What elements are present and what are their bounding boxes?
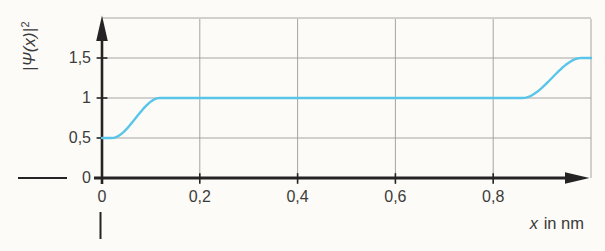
y-axis-title-main: |Ψ(x)| <box>20 28 38 71</box>
y-tick-label: 1 <box>51 88 91 108</box>
x-axis-title-unit: in nm <box>539 214 584 232</box>
probability-density-curve <box>102 58 591 138</box>
y-axis-title-exponent: 2 <box>19 21 31 27</box>
probability-density-chart: |Ψ(x)|2 x in nm 00,20,40,60,80,511,50 <box>0 0 605 251</box>
plot-canvas <box>0 0 605 251</box>
x-tick-label: 0,8 <box>473 187 513 207</box>
x-axis-title: x in nm <box>530 214 584 233</box>
y-axis-title: |Ψ(x)|2 <box>19 21 40 71</box>
y-zero-label: 0 <box>51 168 91 188</box>
x-tick-label: 0,2 <box>180 187 220 207</box>
y-tick-label: 0,5 <box>51 128 91 148</box>
y-tick-label: 1,5 <box>51 48 91 68</box>
x-tick-label: 0,4 <box>278 187 318 207</box>
x-tick-label: 0,6 <box>375 187 415 207</box>
y-axis-arrowhead <box>96 16 108 42</box>
x-axis-title-variable: x <box>530 214 539 232</box>
x-axis-arrowhead <box>565 172 590 184</box>
x-tick-label: 0 <box>82 187 122 207</box>
